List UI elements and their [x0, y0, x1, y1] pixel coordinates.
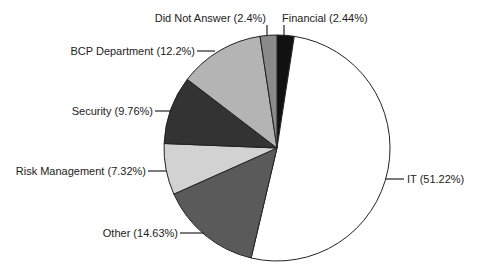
label-risk-management: Risk Management (7.32%) — [16, 165, 146, 177]
label-other: Other (14.63%) — [103, 227, 178, 239]
pie-slices — [164, 35, 390, 261]
label-did-not-answer: Did Not Answer (2.4%) — [155, 12, 266, 24]
pie-chart: Financial (2.44%) IT (51.22%) Other (14.… — [0, 0, 482, 278]
label-bcp-department: BCP Department (12.2%) — [70, 45, 195, 57]
label-it: IT (51.22%) — [407, 173, 464, 185]
label-financial: Financial (2.44%) — [282, 12, 368, 24]
label-security: Security (9.76%) — [72, 105, 153, 117]
